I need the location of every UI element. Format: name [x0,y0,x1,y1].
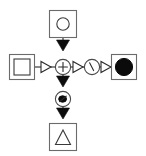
arrow-down-top-to-center [57,40,70,51]
arrow-down-center-to-lower [57,76,70,87]
arrowhead-layer [41,40,111,119]
inner-square-icon [14,59,30,75]
edge-layer [35,38,114,117]
node-square-with-triangle[interactable] [50,124,77,151]
arrow-right-right-mid-to-right [101,62,111,73]
node-double-square[interactable] [10,55,35,80]
diagram-canvas [0,0,146,156]
open-circle-icon [57,18,69,30]
arrow-down-lower-to-bottom [57,108,70,119]
node-circle-with-plus[interactable] [55,59,70,74]
filled-circle-icon [115,58,132,75]
arrow-right-center-to-right-mid [73,62,83,73]
node-square-with-filled-circle[interactable] [112,55,137,80]
arrow-right-left-to-center [41,62,51,73]
node-square-with-open-circle[interactable] [50,11,77,38]
node-circle-with-mark[interactable] [55,91,70,106]
node-circle-with-slash[interactable] [84,59,99,74]
diagram-svg [0,0,146,156]
